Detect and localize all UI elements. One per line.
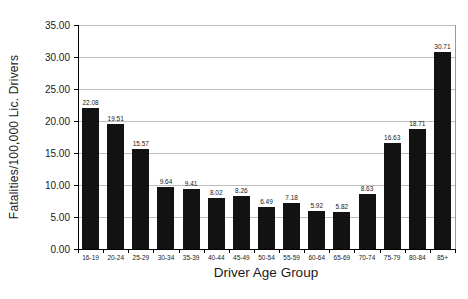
y-axis-line [78, 25, 79, 249]
x-category-label: 70-74 [359, 254, 376, 261]
bar-value-label: 9.41 [185, 180, 198, 187]
bar-16-19 [82, 108, 99, 249]
bar-value-label: 15.57 [133, 140, 149, 147]
x-axis-title: Driver Age Group [214, 265, 318, 280]
x-tick-mark [329, 250, 330, 253]
bar-35-39 [183, 189, 200, 249]
x-tick-mark [128, 250, 129, 253]
bar-20-24 [107, 124, 124, 249]
bar-45-49 [233, 196, 250, 249]
x-category-label: 30-34 [158, 254, 175, 261]
bar-value-label: 8.26 [235, 187, 248, 194]
x-tick-mark [153, 250, 154, 253]
x-tick-mark [380, 250, 381, 253]
gridline-25 [78, 89, 455, 90]
x-category-label: 80-84 [409, 254, 426, 261]
gridline-35 [78, 25, 455, 26]
x-axis-line [78, 249, 456, 250]
x-category-label: 60-64 [308, 254, 325, 261]
x-tick-mark [229, 250, 230, 253]
x-category-label: 65-69 [334, 254, 351, 261]
fatalities-by-age-bar-chart: Fatalities/100,000 Lic. Drivers 0.005.00… [0, 0, 468, 299]
x-tick-mark [455, 250, 456, 253]
bar-value-label: 5.82 [336, 203, 349, 210]
bar-60-64 [308, 211, 325, 249]
x-category-label: 85+ [437, 254, 448, 261]
x-tick-mark [254, 250, 255, 253]
bar-value-label: 8.63 [361, 185, 374, 192]
x-category-label: 50-54 [258, 254, 275, 261]
bar-50-54 [258, 207, 275, 249]
bar-value-label: 5.92 [310, 202, 323, 209]
x-tick-mark [354, 250, 355, 253]
x-category-label: 45-49 [233, 254, 250, 261]
x-tick-mark [179, 250, 180, 253]
bar-value-label: 19.51 [108, 115, 124, 122]
x-tick-mark [405, 250, 406, 253]
bar-25-29 [132, 149, 149, 249]
bar-55-59 [283, 203, 300, 249]
bar-value-label: 30.71 [434, 43, 450, 50]
x-tick-mark [279, 250, 280, 253]
x-category-label: 16-19 [82, 254, 99, 261]
bar-value-label: 9.64 [160, 178, 173, 185]
bar-value-label: 22.08 [82, 99, 98, 106]
bar-value-label: 7.18 [285, 194, 298, 201]
y-tick-label: 10.00 [36, 180, 70, 191]
bar-75-79 [384, 143, 401, 249]
bar-85+ [434, 52, 451, 249]
bar-value-label: 18.71 [409, 120, 425, 127]
x-tick-mark [78, 250, 79, 253]
y-tick-label: 15.00 [36, 148, 70, 159]
bar-40-44 [208, 198, 225, 249]
y-tick-label: 0.00 [36, 244, 70, 255]
x-category-label: 20-24 [107, 254, 124, 261]
bar-65-69 [333, 212, 350, 249]
y-axis-title: Fatalities/100,000 Lic. Drivers [7, 55, 21, 219]
bar-80-84 [409, 129, 426, 249]
x-category-label: 35-39 [183, 254, 200, 261]
gridline-20 [78, 121, 455, 122]
y-tick-label: 20.00 [36, 116, 70, 127]
plot-right-border [455, 25, 456, 249]
bar-value-label: 6.49 [260, 198, 273, 205]
y-tick-label: 25.00 [36, 84, 70, 95]
x-category-label: 75-79 [384, 254, 401, 261]
bar-value-label: 16.63 [384, 134, 400, 141]
x-tick-mark [304, 250, 305, 253]
x-category-label: 25-29 [133, 254, 150, 261]
x-tick-mark [103, 250, 104, 253]
x-tick-mark [430, 250, 431, 253]
bar-30-34 [157, 187, 174, 249]
bar-value-label: 8.02 [210, 189, 223, 196]
x-category-label: 40-44 [208, 254, 225, 261]
y-tick-label: 30.00 [36, 52, 70, 63]
y-tick-label: 35.00 [36, 20, 70, 31]
gridline-30 [78, 57, 455, 58]
x-tick-mark [204, 250, 205, 253]
bar-70-74 [359, 194, 376, 249]
x-category-label: 55-59 [283, 254, 300, 261]
y-tick-label: 5.00 [36, 212, 70, 223]
